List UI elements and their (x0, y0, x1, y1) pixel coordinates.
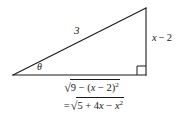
hypotenuse-label: 3 (74, 25, 80, 36)
triangle-hypotenuse-line (13, 8, 146, 75)
base-leg-expression: √9 − (x − 2)2 =√5 + 4x − x2 (0, 79, 184, 116)
radicand-1-exponent: 2 (115, 81, 119, 89)
triangle-figure: 3 x − 2 θ √9 − (x − 2)2 =√5 + 4x − x2 (0, 0, 184, 120)
right-angle-marker-icon (137, 66, 146, 75)
radical-1: √9 − (x − 2)2 (64, 79, 120, 97)
base-expression-line-2: =√5 + 4x − x2 (0, 97, 184, 115)
base-expression-line-1: √9 − (x − 2)2 (0, 79, 184, 97)
radicand-1-prefix: 9 − ( (71, 82, 91, 93)
equals-sign: = (64, 100, 70, 111)
radical-2: √5 + 4x − x2 (71, 97, 124, 115)
radicand-1-middle: − 2) (95, 82, 115, 93)
angle-theta-label: θ (37, 62, 42, 72)
radicand-2-middle: − (104, 100, 115, 111)
radicand-2-prefix: 5 + 4 (77, 100, 99, 111)
radicand-2-exponent: 2 (120, 99, 124, 107)
radicand-1: 9 − (x − 2)2 (70, 79, 120, 95)
vertical-leg-operator: − (157, 32, 167, 43)
radicand-2: 5 + 4x − x2 (76, 97, 124, 113)
vertical-leg-constant: 2 (167, 32, 172, 43)
vertical-leg-label: x − 2 (152, 33, 172, 44)
